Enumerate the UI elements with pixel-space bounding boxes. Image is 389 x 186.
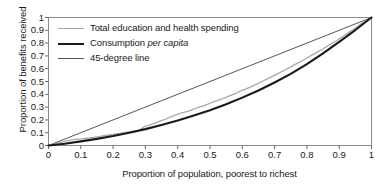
x-tick-label: 0.7: [260, 150, 290, 160]
legend-item: 45-degree line: [58, 50, 288, 65]
chart-legend: Total education and health spendingConsu…: [58, 20, 288, 65]
legend-item: Consumption per capita: [58, 35, 288, 50]
legend-line-swatch: [58, 53, 84, 63]
x-tick-label: 1: [357, 150, 387, 160]
legend-item-label: 45-degree line: [90, 52, 149, 63]
legend-item-label: Consumption per capita: [90, 37, 188, 48]
x-tick-label: 0.8: [292, 150, 322, 160]
x-tick-label: 0.6: [227, 150, 257, 160]
x-tick-label: 0.5: [195, 150, 225, 160]
legend-line-swatch: [58, 23, 84, 33]
y-axis-title: Proportion of benefits received: [17, 0, 28, 145]
lorenz-curve-chart: 00.10.20.30.40.50.60.70.80.91 00.10.20.3…: [0, 0, 389, 186]
legend-item: Total education and health spending: [58, 20, 288, 35]
x-axis-tick-labels: 00.10.20.30.40.50.60.70.80.91: [0, 150, 389, 164]
x-tick-label: 0.4: [163, 150, 193, 160]
legend-line-swatch: [58, 38, 84, 48]
x-axis-title: Proportion of population, poorest to ric…: [48, 168, 371, 179]
x-tick-label: 0.9: [324, 150, 354, 160]
legend-item-label: Total education and health spending: [90, 22, 239, 33]
x-tick-label: 0.2: [98, 150, 128, 160]
x-tick-label: 0.3: [130, 150, 160, 160]
x-tick-label: 0: [34, 150, 64, 160]
x-tick-label: 0.1: [66, 150, 96, 160]
